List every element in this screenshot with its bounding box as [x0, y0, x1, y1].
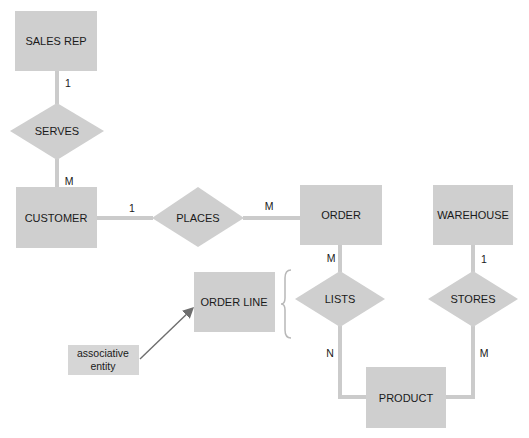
- cardinality-salesrep-serves: 1: [65, 77, 71, 89]
- entity-order[interactable]: ORDER: [300, 185, 382, 245]
- relationship-label: PLACES: [176, 212, 219, 224]
- cardinality-stores-product: M: [480, 347, 489, 359]
- connector-stores-product: [446, 326, 473, 397]
- arrow-icon: [140, 309, 192, 359]
- cardinality-serves-customer: M: [65, 175, 74, 187]
- entity-order-line[interactable]: ORDER LINE: [194, 272, 275, 332]
- cardinality-lists-product: N: [326, 347, 334, 359]
- connector-lists-product: [340, 326, 367, 397]
- cardinality-order-lists: M: [327, 252, 336, 264]
- annotation-associative-entity: associative entity: [68, 309, 192, 375]
- cardinality-places-order: M: [265, 200, 274, 212]
- entity-label: CUSTOMER: [25, 212, 88, 224]
- relationship-serves[interactable]: SERVES: [10, 103, 104, 160]
- relationship-lists[interactable]: LISTS: [295, 271, 385, 327]
- entity-sales-rep[interactable]: SALES REP: [15, 11, 97, 71]
- relationship-stores[interactable]: STORES: [428, 271, 518, 327]
- cardinality-customer-places: 1: [129, 202, 135, 214]
- annotation-line-2: entity: [90, 360, 116, 372]
- er-diagram: SALES REP CUSTOMER ORDER WAREHOUSE ORDER…: [0, 0, 529, 438]
- entity-customer[interactable]: CUSTOMER: [16, 187, 97, 248]
- cardinality-warehouse-stores: 1: [481, 253, 487, 265]
- entity-label: ORDER: [321, 209, 361, 221]
- entity-product[interactable]: PRODUCT: [366, 367, 446, 428]
- relationship-label: STORES: [450, 293, 495, 305]
- entity-label: ORDER LINE: [200, 296, 267, 308]
- brace-associative: [281, 270, 291, 338]
- entity-warehouse[interactable]: WAREHOUSE: [433, 185, 513, 245]
- entity-label: SALES REP: [25, 35, 86, 47]
- relationship-label: SERVES: [35, 125, 79, 137]
- entity-label: PRODUCT: [379, 392, 434, 404]
- entity-label: WAREHOUSE: [437, 209, 509, 221]
- relationship-label: LISTS: [325, 293, 356, 305]
- relationship-places[interactable]: PLACES: [152, 187, 244, 247]
- annotation-line-1: associative: [77, 347, 129, 359]
